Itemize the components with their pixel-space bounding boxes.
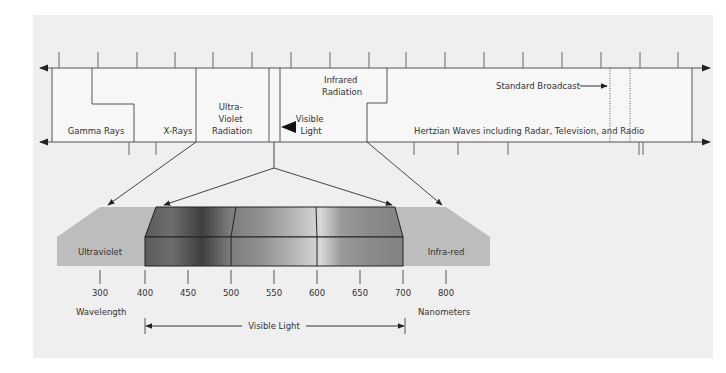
svg-text:800: 800: [438, 288, 454, 298]
gamma-rays-label: Gamma Rays: [68, 126, 125, 136]
standard-broadcast-label: Standard Broadcast: [496, 81, 581, 91]
svg-text:450: 450: [180, 288, 196, 298]
wavelength-label: Wavelength: [76, 307, 126, 317]
svg-text:650: 650: [352, 288, 368, 298]
svg-text:600: 600: [309, 288, 325, 298]
nanometers-label: Nanometers: [418, 307, 471, 317]
x-rays-label: X-Rays: [164, 126, 193, 136]
wavelength-tick-labels: 300 400 450 500 550 600 650 700 800: [92, 288, 454, 298]
svg-text:300: 300: [92, 288, 108, 298]
hertzian-waves-label: Hertzian Waves including Radar, Televisi…: [414, 126, 644, 136]
ultraviolet-band-label: Ultraviolet: [78, 247, 123, 257]
spectrum-front-face: [145, 237, 403, 266]
electromagnetic-spectrum-diagram: Gamma Rays X-Rays Ultra- Violet Radiatio…: [0, 0, 726, 373]
background-panel: [33, 15, 713, 358]
infrared-band-label: Infra-red: [428, 247, 465, 257]
svg-text:550: 550: [266, 288, 282, 298]
spectrum-top-face: [145, 207, 403, 237]
svg-text:500: 500: [223, 288, 239, 298]
svg-text:400: 400: [137, 288, 153, 298]
svg-text:700: 700: [395, 288, 411, 298]
visible-light-range-label: Visible Light: [248, 321, 300, 331]
